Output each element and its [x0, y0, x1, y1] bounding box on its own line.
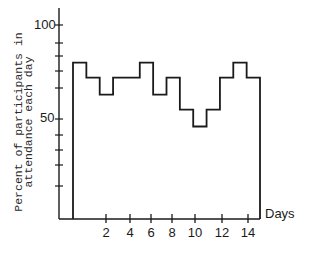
x-tick-label: 10	[188, 225, 202, 240]
attendance-series-line	[73, 63, 260, 219]
x-tick-label: 8	[168, 225, 175, 240]
x-tick-label: 4	[126, 225, 133, 240]
x-tick-label: 14	[241, 225, 255, 240]
x-tick-label: 6	[147, 225, 154, 240]
x-tick-label: 2	[102, 225, 109, 240]
x-tick-label: 12	[215, 225, 229, 240]
x-axis-title: Days	[265, 206, 295, 221]
